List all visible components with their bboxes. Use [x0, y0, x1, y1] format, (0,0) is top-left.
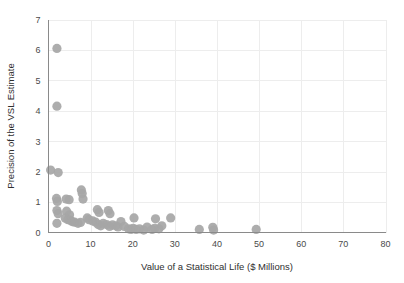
datapoints-group — [46, 44, 261, 235]
data-point — [54, 168, 63, 177]
x-tick-label: 30 — [170, 239, 180, 249]
data-point — [166, 213, 175, 222]
data-point — [52, 102, 61, 111]
x-tick-labels-group: 01020304050607080 — [46, 239, 391, 249]
y-tick-label: 3 — [35, 137, 40, 147]
y-tick-label: 6 — [35, 45, 40, 55]
x-tick-label: 0 — [46, 239, 51, 249]
gridlines-group — [49, 20, 387, 233]
x-tick-label: 20 — [128, 239, 138, 249]
x-tick-label: 70 — [338, 239, 348, 249]
y-tick-label: 1 — [35, 197, 40, 207]
data-point — [209, 225, 218, 234]
y-tick-label: 4 — [35, 106, 40, 116]
y-tick-label: 2 — [35, 167, 40, 177]
y-tick-label: 0 — [35, 228, 40, 238]
y-axis-title: Precision of the VSL Estimate — [5, 63, 16, 188]
data-point — [65, 195, 74, 204]
x-tick-label: 60 — [296, 239, 306, 249]
y-tick-label: 5 — [35, 76, 40, 86]
x-tick-label: 80 — [380, 239, 390, 249]
data-point — [94, 208, 103, 217]
x-tick-label: 40 — [212, 239, 222, 249]
data-point — [78, 194, 87, 203]
x-tick-label: 50 — [254, 239, 264, 249]
y-tick-label: 7 — [35, 15, 40, 25]
data-point — [151, 214, 160, 223]
data-point — [157, 221, 166, 230]
data-point — [52, 219, 61, 228]
y-tick-labels-group: 01234567 — [35, 15, 40, 238]
data-point — [105, 209, 114, 218]
data-point — [53, 197, 62, 206]
scatter-chart: 0123456701020304050607080Value of a Stat… — [0, 0, 404, 283]
chart-canvas: 0123456701020304050607080Value of a Stat… — [0, 0, 404, 283]
x-axis-title: Value of a Statistical Life ($ Millions) — [141, 261, 293, 272]
data-point — [52, 44, 61, 53]
x-tick-label: 10 — [86, 239, 96, 249]
data-point — [129, 213, 138, 222]
